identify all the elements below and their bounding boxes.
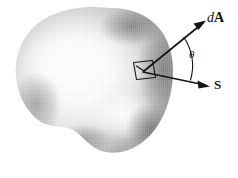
angle-theta-label: θ bbox=[189, 49, 194, 60]
closed-surface bbox=[0, 0, 238, 178]
vector-dA-label-A: A bbox=[214, 10, 224, 25]
vector-dA-label-d: d bbox=[207, 10, 214, 25]
halftone-texture bbox=[0, 0, 238, 178]
flux-diagram-svg bbox=[0, 0, 238, 178]
vector-S-label: S bbox=[214, 78, 221, 91]
vector-S-arrowhead bbox=[198, 81, 211, 89]
vector-dA-label: dA bbox=[207, 11, 224, 25]
figure-container: dA S θ bbox=[0, 0, 238, 178]
